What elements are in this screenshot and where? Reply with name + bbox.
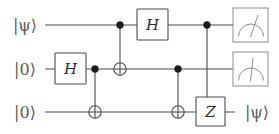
gate-label: H	[63, 60, 78, 78]
quantum-circuit-diagram: |ψ⟩ |0⟩ |0⟩ |ψ⟩	[0, 0, 279, 134]
control-dot[interactable]	[117, 22, 124, 29]
input-label-wire-1: |ψ⟩	[13, 16, 37, 35]
measurement-meter-wire-2[interactable]	[233, 52, 268, 86]
pauli-z-gate-wire-3[interactable]: Z	[196, 97, 225, 126]
circuit-canvas: |ψ⟩ |0⟩ |0⟩ |ψ⟩	[0, 0, 279, 134]
input-label-wire-3: |0⟩	[14, 103, 36, 122]
control-dot[interactable]	[92, 66, 99, 73]
gate-label: H	[145, 16, 160, 34]
cnot-gate-2[interactable]	[114, 22, 126, 76]
cnot-gate-3[interactable]	[172, 66, 184, 119]
output-label-wire-3: |ψ⟩	[245, 103, 269, 122]
measurement-meter-wire-1[interactable]	[233, 8, 268, 42]
control-dot[interactable]	[204, 22, 211, 29]
controlled-z-gate[interactable]	[204, 22, 211, 99]
hadamard-gate-wire-2[interactable]: H	[55, 53, 86, 84]
cnot-gate-1[interactable]	[89, 66, 101, 119]
control-dot[interactable]	[175, 66, 182, 73]
hadamard-gate-wire-1[interactable]: H	[137, 9, 168, 40]
input-label-wire-2: |0⟩	[14, 60, 36, 79]
gate-label: Z	[204, 103, 216, 121]
